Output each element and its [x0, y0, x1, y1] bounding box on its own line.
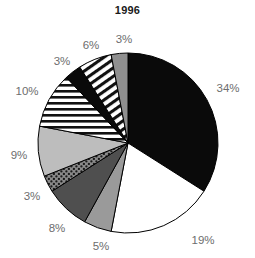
- pie-slice-label: 34%: [216, 82, 239, 94]
- pie-slice-label: 3%: [54, 55, 71, 67]
- pie-slice-label: 19%: [191, 234, 214, 246]
- pie-slice-label: 6%: [83, 39, 100, 51]
- pie-slice-label: 10%: [15, 85, 38, 97]
- pie-slice-label: 5%: [93, 240, 110, 252]
- pie-chart-figure: 1996 34%19%5%8%3%9%10%3%6%3%: [0, 0, 255, 258]
- pie-slice-label: 9%: [11, 149, 28, 161]
- pie-slice-label: 8%: [49, 222, 66, 234]
- pie-slice-label: 3%: [24, 190, 41, 202]
- pie-slices: [38, 53, 218, 233]
- pie-slice-label: 3%: [116, 33, 133, 45]
